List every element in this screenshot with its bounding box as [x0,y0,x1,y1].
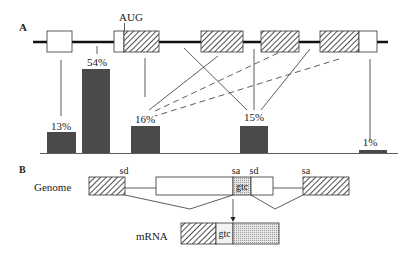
genome-gtc-label: gtc [236,181,249,192]
pct-label-54: 54% [87,56,107,68]
exon-5-cds [320,31,359,52]
splice-donor-label-2: sd [250,165,259,176]
genome-intron-block-right [251,177,273,195]
panel-b: B Genome gtc sd sa sd sa mRNA gtc [19,164,349,244]
exon-2-cds [124,31,159,52]
splice-donor-label-1: sd [120,165,129,176]
pct-label-16: 16% [135,113,155,125]
exon-1-utr [47,31,72,52]
genome-exon-right [303,177,349,195]
mrna-exon-left [181,223,216,244]
genome-intron-block-left [156,177,233,195]
panel-a-label: A [19,21,27,33]
mrna-label: mRNA [136,230,168,242]
panel-a: A AUG [19,11,398,154]
splice-junction-1 [125,195,233,209]
genome-exon-left [89,177,125,195]
bar-54 [82,69,110,153]
exon-4-cds [261,31,299,52]
exon-2-utr [114,31,124,52]
mrna-exon-right [233,223,279,244]
bar-16 [131,126,160,153]
splice-junction-2 [251,195,303,209]
panel-b-label: B [19,164,26,175]
bar-13 [47,132,76,153]
exon-5-utr [359,31,377,52]
aug-label: AUG [119,11,143,23]
mrna-gtc-label: gtc [218,228,231,239]
insertion-frequency-bars [47,69,387,153]
exon-3-cds [201,31,243,52]
arrow-down-icon [231,217,236,222]
splice-acceptor-label-1: sa [232,165,241,176]
pct-label-15: 15% [244,111,264,123]
bar-1 [359,150,387,153]
splice-acceptor-label-2: sa [302,165,311,176]
bar-15 [240,126,268,153]
genome-label: Genome [34,181,71,193]
pct-label-1: 1% [363,136,378,148]
diagram-canvas: A AUG [0,0,411,256]
pct-label-13: 13% [51,120,71,132]
